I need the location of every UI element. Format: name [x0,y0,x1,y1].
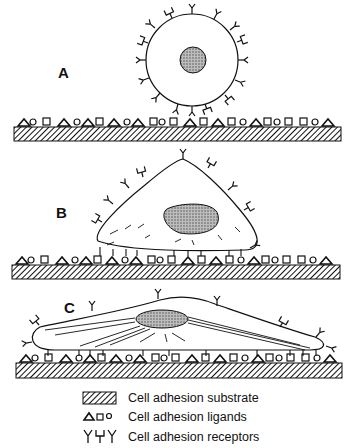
legend-symbols [83,392,116,443]
cell-adhesion-diagram [0,0,354,448]
legend-substrate: Cell adhesion substrate [128,391,259,405]
adhesions-c [48,350,316,356]
panel-label-b: B [56,204,67,221]
panel-label-a: A [58,64,69,81]
receptor-icons [84,430,116,443]
nucleus-c [136,310,188,328]
panel-label-c: C [64,299,75,316]
substrate-a [14,127,341,141]
substrate-swatch [83,392,116,404]
cell-b [97,159,257,251]
square-ligand-icon [97,414,103,420]
substrate-b [12,265,340,279]
nucleus-a [180,47,206,73]
legend-receptors: Cell adhesion receptors [128,430,259,444]
triangle-ligand-icon [84,413,94,420]
nucleus-b [164,204,219,234]
circle-ligand-icon [107,414,112,419]
legend-ligands: Cell adhesion ligands [128,410,247,424]
substrate-c [16,363,342,378]
